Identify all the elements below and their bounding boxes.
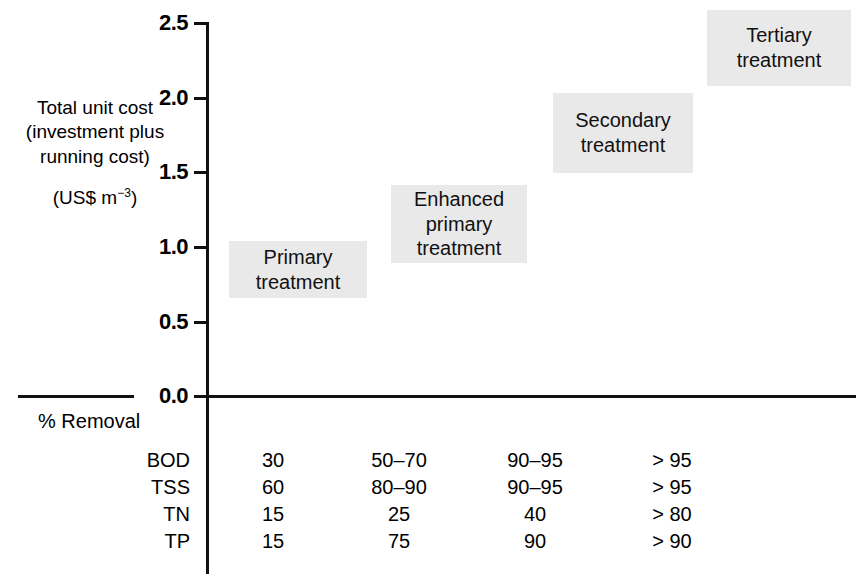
table-row-label-tss: TSS (60, 476, 190, 499)
table-cell-tss-primary: 60 (262, 476, 284, 499)
baseline-right-segment (206, 395, 856, 398)
y-tick-2-0 (194, 97, 207, 100)
table-title: % Removal (38, 410, 140, 433)
y-tick-label-1-0: 1.0 (128, 236, 188, 258)
table-row-label-bod: BOD (60, 449, 190, 472)
table-cell-tn-enhanced: 25 (388, 503, 410, 526)
table-cell-tn-secondary: 40 (524, 503, 546, 526)
y-axis-line (206, 22, 209, 396)
table-cell-tss-secondary: 90–95 (507, 476, 563, 499)
y-tick-0-5 (194, 321, 207, 324)
y-tick-label-2-5: 2.5 (128, 12, 188, 34)
chart-canvas: 2.5 2.0 1.5 1.0 0.5 0.0 Total unit cost … (0, 0, 861, 581)
step-enhanced-line3: treatment (414, 236, 504, 261)
y-tick-label-0-5: 0.5 (128, 311, 188, 333)
step-primary-line2: treatment (256, 270, 340, 295)
table-cell-tp-enhanced: 75 (388, 530, 410, 553)
baseline-left-segment (18, 395, 134, 398)
y-axis-title-line3: running cost) (0, 145, 190, 169)
table-cell-tn-tertiary: > 80 (652, 503, 691, 526)
y-axis-title-line2: (investment plus (0, 120, 190, 144)
y-axis-title-line1: Total unit cost (0, 96, 190, 120)
step-block-primary: Primary treatment (229, 241, 367, 298)
step-block-secondary: Secondary treatment (553, 93, 693, 173)
y-axis-units-exponent: −3 (117, 186, 131, 200)
step-secondary-line1: Secondary (575, 108, 671, 133)
step-primary-line1: Primary (256, 245, 340, 270)
step-tertiary-line1: Tertiary (737, 23, 821, 48)
table-cell-bod-primary: 30 (262, 449, 284, 472)
step-block-enhanced: Enhanced primary treatment (391, 185, 527, 263)
y-axis-units-suffix: ) (131, 187, 137, 208)
step-tertiary-line2: treatment (737, 48, 821, 73)
table-divider-line (206, 396, 209, 574)
y-tick-1-5 (194, 171, 207, 174)
step-secondary-line2: treatment (575, 133, 671, 158)
y-tick-1-0 (194, 246, 207, 249)
table-cell-bod-tertiary: > 95 (652, 449, 691, 472)
step-enhanced-line2: primary (414, 212, 504, 237)
table-cell-tp-primary: 15 (262, 530, 284, 553)
table-cell-bod-secondary: 90–95 (507, 449, 563, 472)
step-block-tertiary: Tertiary treatment (707, 10, 851, 86)
y-axis-units: (US$ m−3) (0, 186, 190, 210)
table-cell-tp-secondary: 90 (524, 530, 546, 553)
table-cell-tss-enhanced: 80–90 (371, 476, 427, 499)
table-cell-bod-enhanced: 50–70 (371, 449, 427, 472)
table-cell-tp-tertiary: > 90 (652, 530, 691, 553)
y-tick-2-5 (194, 22, 207, 25)
step-enhanced-line1: Enhanced (414, 187, 504, 212)
y-axis-units-prefix: (US$ m (53, 187, 117, 208)
table-cell-tss-tertiary: > 95 (652, 476, 691, 499)
table-row-label-tn: TN (60, 503, 190, 526)
y-tick-label-0-0: 0.0 (128, 385, 188, 407)
table-cell-tn-primary: 15 (262, 503, 284, 526)
table-row-label-tp: TP (60, 530, 190, 553)
y-axis-title: Total unit cost (investment plus running… (0, 96, 190, 169)
